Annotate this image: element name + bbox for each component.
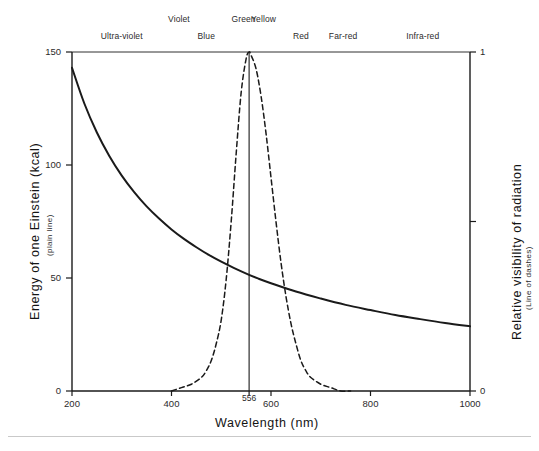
- band-label-ultra-violet: Ultra-violet: [101, 31, 143, 41]
- left-tick-label-150: 150: [45, 46, 61, 57]
- left-tick-label-100: 100: [45, 159, 61, 170]
- x-tick-label-600: 600: [263, 398, 279, 409]
- x-tick-label-200: 200: [64, 398, 80, 409]
- visibility-curve: [172, 52, 351, 391]
- x-axis-title: Wavelength (nm): [215, 416, 319, 430]
- footer-divider: [8, 436, 531, 437]
- band-label-blue: Blue: [198, 31, 215, 41]
- x-tick-label-556: 556: [242, 393, 256, 403]
- left-tick-label-0: 0: [56, 385, 61, 396]
- right-axis-title: Relative visibility of radiation: [510, 164, 524, 340]
- band-label-red: Red: [293, 31, 309, 41]
- band-label-infra-red: Infra-red: [406, 31, 439, 41]
- x-tick-label-1000: 1000: [459, 398, 480, 409]
- x-tick-label-800: 800: [363, 398, 379, 409]
- chart-canvas: [0, 0, 539, 451]
- energy-curve: [72, 68, 470, 327]
- left-axis-title: Energy of one Einstein (kcal): [28, 143, 42, 320]
- data-curves: [72, 52, 470, 391]
- left-tick-label-50: 50: [50, 272, 61, 283]
- band-label-far-red: Far-red: [329, 31, 358, 41]
- axis-ticks: [66, 52, 476, 396]
- right-tick-label-1: 1: [480, 46, 485, 57]
- spectrum-energy-visibility-figure: VioletGreenYellowUltra-violetBlueRedFar-…: [0, 0, 539, 451]
- left-axis-subtitle: (plain line): [45, 214, 54, 256]
- right-tick-label-0: 0: [480, 385, 485, 396]
- axis-frame: [72, 52, 470, 391]
- x-tick-label-400: 400: [164, 398, 180, 409]
- band-label-violet: Violet: [168, 14, 190, 24]
- right-axis-subtitle: (Line of dashes): [524, 246, 533, 310]
- band-label-yellow: Yellow: [251, 14, 276, 24]
